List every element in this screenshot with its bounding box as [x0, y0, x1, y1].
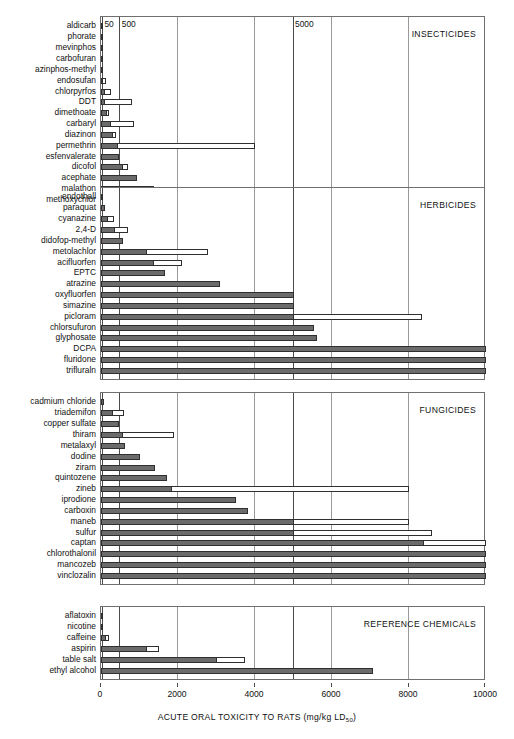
bar-segment-high: [107, 216, 114, 222]
bar-segment-low: [101, 238, 123, 244]
category-label: vinclozalin: [0, 571, 96, 579]
category-label: acifluorfen: [0, 258, 96, 266]
category-label: esfenvalerate: [0, 152, 96, 160]
bar-row: [101, 486, 484, 492]
category-label: aldicarb: [0, 21, 96, 29]
bar-row: [101, 143, 484, 149]
category-label: fluridone: [0, 355, 96, 363]
bar-row: [101, 67, 484, 73]
bar-row: [101, 121, 484, 127]
bar-segment-low: [101, 486, 172, 492]
bar-row: [101, 635, 484, 641]
bar-row: [101, 646, 484, 652]
x-axis-tick: [408, 683, 409, 687]
category-label: dimethoate: [0, 108, 96, 116]
category-label: zineb: [0, 484, 96, 492]
bar-segment-low: [101, 551, 486, 557]
category-label: simazine: [0, 301, 96, 309]
bar-segment-high: [105, 635, 109, 641]
bar-segment-low: [101, 657, 217, 663]
category-label: didofop-methyl: [0, 236, 96, 244]
bar-segment-high: [112, 410, 125, 416]
bar-segment-low: [101, 465, 155, 471]
bar-segment-low: [101, 260, 154, 266]
bar-row: [101, 465, 484, 471]
bar-segment-low: [101, 314, 294, 320]
category-label: quintozene: [0, 473, 96, 481]
category-label: metalaxyl: [0, 441, 96, 449]
bar-segment-high: [146, 646, 159, 652]
bar-row: [101, 346, 484, 352]
category-label: cadmium chloride: [0, 397, 96, 405]
category-label: carbofuran: [0, 54, 96, 62]
category-label: captan: [0, 538, 96, 546]
bar-segment-low: [101, 346, 486, 352]
category-label: triademifon: [0, 408, 96, 416]
bar-row: [101, 432, 484, 438]
category-label: DCPA: [0, 344, 96, 352]
bar-segment-low: [101, 23, 103, 29]
bar-row: [101, 270, 484, 276]
bar-row: [101, 260, 484, 266]
bar-segment-low: [101, 624, 103, 630]
category-label: aspirin: [0, 644, 96, 652]
bar-row: [101, 227, 484, 233]
bar-segment-low: [101, 508, 248, 514]
acute-oral-toxicity-chart: aldicarbphoratemevinphoscarbofuranazinph…: [0, 0, 514, 739]
bar-segment-low: [101, 175, 137, 181]
bar-row: [101, 281, 484, 287]
category-label: azinphos-methyl: [0, 65, 96, 73]
category-label: dodine: [0, 452, 96, 460]
category-label: chlorsufuron: [0, 323, 96, 331]
bar-row: [101, 292, 484, 298]
category-label: mevinphos: [0, 43, 96, 51]
category-label: endothall: [0, 192, 96, 200]
bar-segment-low: [101, 154, 119, 160]
bar-segment-high: [106, 110, 110, 116]
bar-segment-high: [293, 314, 423, 320]
bar-segment-high: [114, 227, 128, 233]
category-label: mancozeb: [0, 560, 96, 568]
bar-segment-low: [101, 303, 294, 309]
panel-title: INSECTICIDES: [412, 29, 476, 39]
bar-row: [101, 443, 484, 449]
category-label-column: aldicarbphoratemevinphoscarbofuranazinph…: [0, 0, 97, 739]
bar-segment-low: [101, 227, 115, 233]
bar-segment-low: [101, 249, 147, 255]
bar-segment-low: [101, 164, 123, 170]
x-axis-tick: [177, 683, 178, 687]
bar-segment-high: [216, 657, 246, 663]
bar-segment-low: [101, 497, 236, 503]
category-label: cyanazine: [0, 214, 96, 222]
bar-row: [101, 475, 484, 481]
bar-row: [101, 78, 484, 84]
bar-rows: [101, 607, 484, 679]
bar-row: [101, 519, 484, 525]
bar-segment-low: [101, 573, 486, 579]
x-axis-tick-label: 0: [70, 689, 130, 699]
bar-segment-low: [101, 668, 373, 674]
category-label: metolachlor: [0, 247, 96, 255]
x-axis-tick: [254, 683, 255, 687]
category-label: caffeine: [0, 633, 96, 641]
category-label: DDT: [0, 97, 96, 105]
bar-row: [101, 164, 484, 170]
category-label: chlorothalonil: [0, 549, 96, 557]
bar-segment-low: [101, 325, 314, 331]
bar-segment-low: [101, 292, 294, 298]
panel-title: REFERENCE CHEMICALS: [364, 619, 476, 629]
bar-segment-low: [101, 34, 103, 40]
axis-title-subscript: 50: [346, 717, 353, 723]
category-label: paraquat: [0, 203, 96, 211]
category-label: carboxin: [0, 506, 96, 514]
category-label: diazinon: [0, 130, 96, 138]
bar-segment-low: [101, 530, 294, 536]
category-label: 2,4-D: [0, 225, 96, 233]
x-axis-tick-label: 2000: [147, 689, 207, 699]
category-label: table salt: [0, 655, 96, 663]
bar-row: [101, 314, 484, 320]
chart-panel-fungicides: FUNGICIDES: [100, 392, 485, 585]
bar-row: [101, 454, 484, 460]
category-label: sulfur: [0, 528, 96, 536]
bar-rows: [101, 393, 484, 584]
